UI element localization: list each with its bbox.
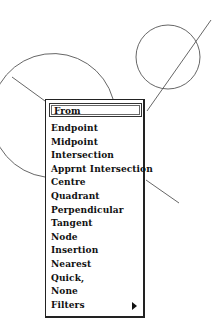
menu-item-intersection[interactable]: Intersection [46,149,143,163]
drawn-circle[interactable] [136,25,200,89]
menu-item-tangent[interactable]: Tangent [46,217,143,231]
menu-item-nearest[interactable]: Nearest [46,258,143,272]
menu-item-midpoint[interactable]: Midpoint [46,136,143,150]
menu-item-node[interactable]: Node [46,231,143,245]
from-field[interactable]: From [49,103,142,117]
object-snap-menu: From Endpoint Midpoint Intersection Appr… [45,99,145,318]
menu-item-quadrant[interactable]: Quadrant [46,190,143,204]
menu-item-insertion[interactable]: Insertion [46,244,143,258]
menu-item-centre[interactable]: Centre [46,176,143,190]
menu-item-none[interactable]: None [46,285,143,299]
triangle-right-icon [132,302,137,310]
menu-item-filters-label: Filters [51,300,85,310]
drawn-line[interactable] [12,77,45,101]
menu-item-apparent-intersection[interactable]: Apprnt Intersection [46,163,143,177]
snap-options-list: Endpoint Midpoint Intersection Apprnt In… [46,122,143,312]
menu-item-quick[interactable]: Quick, [46,272,143,286]
drawn-line[interactable] [147,20,211,111]
menu-item-filters[interactable]: Filters [46,299,143,313]
menu-item-endpoint[interactable]: Endpoint [46,122,143,136]
menu-item-perpendicular[interactable]: Perpendicular [46,204,143,218]
from-label: From [51,105,140,115]
drawn-line[interactable] [146,180,179,203]
